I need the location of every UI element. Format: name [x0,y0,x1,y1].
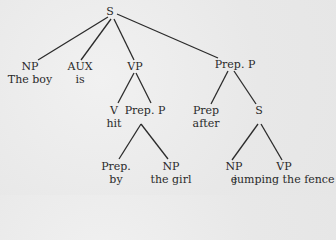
node-word: hit [106,117,121,130]
node-prep-by: Prep. by [101,160,131,186]
node-aux: AUX is [67,60,92,86]
node-label: AUX [67,60,92,73]
node-label: VP [234,160,335,173]
node-label: Prep. P [215,58,256,71]
node-word: The boy [8,73,52,86]
node-label: S [106,5,114,18]
edge-s-aux [81,19,111,60]
edge-s-pp [117,14,218,58]
node-prep-phrase-outer: Prep. P [215,58,256,71]
node-prep-phrase-inner: Prep. P [125,104,166,117]
node-np-subject: NP The boy [8,60,52,86]
edge-vp-pp [136,73,151,103]
node-s-embedded: S [255,104,263,117]
node-s-root: S [106,5,114,18]
node-label: Prep [193,104,220,117]
node-prep-after: Prep after [193,104,220,130]
node-word: the girl [151,173,192,186]
edge-s2-np [232,124,258,160]
node-vp-jumping: VP jumping the fence [234,160,335,186]
node-label: V [106,104,121,117]
node-word: is [67,73,92,86]
edge-vp-v [118,73,134,103]
node-np-object: NP the girl [151,160,192,186]
edge-pp-np [141,124,168,159]
node-label: VP [127,60,142,73]
edge-s2-vp [261,124,282,160]
node-word: after [193,117,220,130]
node-vp: VP [127,60,142,73]
node-word: jumping the fence [234,173,335,186]
node-label: S [255,104,263,117]
node-label: Prep. P [125,104,166,117]
node-label: Prep. [101,160,131,173]
node-label: NP [8,60,52,73]
node-word: by [101,173,131,186]
edge-pp-prep [119,124,141,159]
edge-s-vp [114,19,134,60]
edge-pp2-s [234,71,256,104]
node-v: V hit [106,104,121,130]
edge-pp2-prep [211,71,228,104]
node-label: NP [151,160,192,173]
